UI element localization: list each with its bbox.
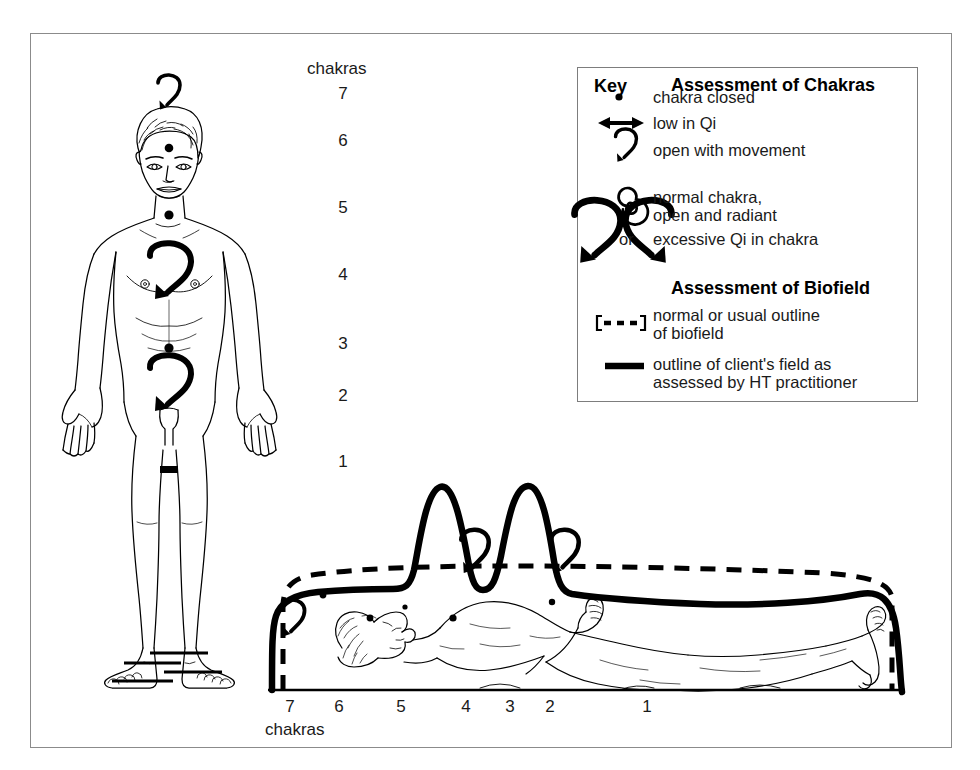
key-item-open-with-movement-label: open with movement — [653, 141, 805, 159]
key-item-client-field-line2: assessed by HT practitioner — [653, 373, 857, 391]
axis-chakra-label-7: 7 — [279, 697, 301, 717]
axis-chakra-label-6: 6 — [328, 697, 350, 717]
axis-chakra-label-2: 2 — [539, 697, 561, 717]
axis-chakras-heading: chakras — [265, 720, 325, 740]
standing-chakra-label-4: 4 — [330, 265, 356, 285]
key-item-chakra-closed-label: chakra closed — [653, 88, 755, 106]
axis-chakra-label-4: 4 — [455, 697, 477, 717]
key-item-normal-chakra-line2: open and radiant — [653, 206, 777, 224]
standing-chakra-label-5: 5 — [330, 198, 356, 218]
standing-chakra-label-6: 6 — [330, 131, 356, 151]
standing-chakra-label-2: 2 — [330, 386, 356, 406]
key-label: Key — [594, 76, 627, 97]
axis-chakra-label-3: 3 — [499, 697, 521, 717]
standing-chakra-label-3: 3 — [330, 334, 356, 354]
standing-chakras-heading: chakras — [307, 59, 367, 79]
standing-chakra-label-1: 1 — [330, 452, 356, 472]
key-or-label: or — [619, 230, 634, 248]
key-biofield-heading: Assessment of Biofield — [671, 278, 870, 299]
axis-chakra-label-1: 1 — [636, 697, 658, 717]
diagram-canvas: Key Assessment of Chakras chakra closed … — [0, 0, 980, 770]
axis-chakra-label-5: 5 — [390, 697, 412, 717]
key-item-excessive-qi-label: excessive Qi in chakra — [653, 230, 818, 248]
key-item-normal-chakra-line1: normal chakra, — [653, 188, 762, 206]
key-item-normal-biofield-line2: of biofield — [653, 324, 724, 342]
key-item-normal-biofield-line1: normal or usual outline — [653, 306, 820, 324]
standing-chakra-label-7: 7 — [330, 84, 356, 104]
key-item-client-field-line1: outline of client's field as — [653, 355, 831, 373]
key-item-low-in-qi-label: low in Qi — [653, 114, 716, 132]
